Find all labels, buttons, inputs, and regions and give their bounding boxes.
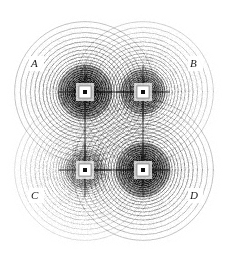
source-label-a: A <box>31 58 38 69</box>
source-label-b: B <box>190 58 197 69</box>
source-label-d: D <box>190 190 198 201</box>
source-label-c: C <box>31 190 39 201</box>
interference-pattern-canvas <box>0 0 229 256</box>
figure-container: A B C D <box>0 0 229 256</box>
